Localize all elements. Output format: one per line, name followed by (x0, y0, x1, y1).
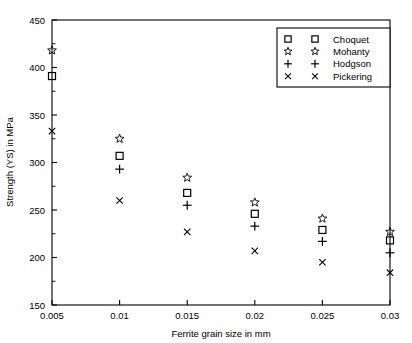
series-pickering (49, 128, 393, 276)
series-choquet (49, 73, 394, 244)
x-tick-label: 0.025 (311, 310, 335, 321)
chart-legend[interactable]: ChoquetMohantyHodgsonPickering (277, 28, 390, 87)
y-axis-ticks: 150200250300350400450 (29, 15, 57, 311)
y-tick-label: 400 (29, 62, 45, 73)
y-tick-label: 350 (29, 110, 45, 121)
star-marker (115, 134, 124, 142)
x-tick-label: 0.005 (40, 310, 64, 321)
y-tick-label: 150 (29, 300, 45, 311)
square-marker (116, 152, 123, 159)
chart-container: 150200250300350400450 0.0050.010.0150.02… (0, 0, 412, 343)
square-marker (184, 189, 191, 196)
y-tick-label: 300 (29, 157, 45, 168)
star-marker (183, 173, 192, 181)
legend-label-choquet[interactable]: Choquet (333, 34, 369, 45)
legend-label-hodgson[interactable]: Hodgson (333, 58, 371, 69)
star-marker (250, 198, 259, 206)
x-tick-label: 0.015 (175, 310, 199, 321)
x-tick-label: 0.03 (381, 310, 400, 321)
star-marker (318, 214, 327, 222)
scatter-plot-svg: 150200250300350400450 0.0050.010.0150.02… (0, 0, 412, 343)
x-axis-title: Ferrite grain size in mm (171, 328, 270, 339)
series-hodgson (115, 165, 394, 257)
y-tick-label: 250 (29, 205, 45, 216)
y-tick-label: 200 (29, 252, 45, 263)
legend-label-pickering[interactable]: Pickering (333, 71, 372, 82)
x-tick-label: 0.01 (110, 310, 129, 321)
x-tick-label: 0.02 (246, 310, 265, 321)
square-marker (319, 226, 326, 233)
legend-label-mohanty[interactable]: Mohanty (333, 46, 370, 57)
x-axis-ticks: 0.0050.010.0150.020.0250.03 (40, 300, 399, 321)
square-marker (251, 210, 258, 217)
y-axis-title: Strength (YS) in MPa (4, 116, 15, 206)
y-tick-label: 450 (29, 15, 45, 26)
